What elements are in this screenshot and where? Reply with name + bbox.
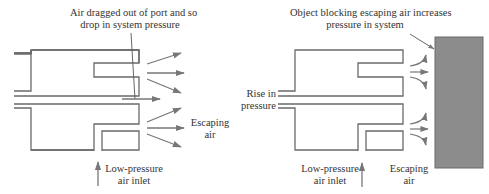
right-lower-deflected-arrows: [410, 113, 428, 145]
right-inlet-label: Low-pressure air inlet: [300, 163, 360, 187]
left-upper-escape-arrows: [147, 53, 184, 93]
left-escaping-line-1: Escaping: [190, 117, 230, 129]
left-nozzle-body: [14, 50, 139, 151]
right-inlet-line-1: Low-pressure: [300, 163, 360, 175]
right-annotation-line-2: pressure in system: [290, 19, 440, 31]
right-escaping-line-2: air: [389, 175, 429, 187]
right-nozzle-body: [278, 50, 403, 151]
rise-line-2: pressure: [236, 100, 276, 112]
right-annotation-top: Object blocking escaping air increases p…: [290, 7, 440, 31]
right-escaping-label: Escaping air: [389, 163, 429, 187]
annotation-pointer-line: [131, 33, 135, 99]
left-escaping-line-2: air: [190, 129, 230, 141]
right-inlet-line-2: air inlet: [300, 175, 360, 187]
left-inlet-line-2: air inlet: [104, 175, 164, 187]
left-lower-escape-arrows: [147, 108, 184, 147]
left-annotation-line-2: drop in system pressure: [70, 19, 190, 31]
blocking-object: [435, 37, 483, 168]
right-annotation-line-1: Object blocking escaping air increases: [290, 7, 440, 19]
left-inlet-line-1: Low-pressure: [104, 163, 164, 175]
left-inlet-label: Low-pressure air inlet: [104, 163, 164, 187]
left-annotation-line-1: Air dragged out of port and so: [70, 7, 190, 19]
left-annotation-top: Air dragged out of port and so drop in s…: [70, 7, 190, 31]
right-escaping-line-1: Escaping: [389, 163, 429, 175]
block-pointer-line: [410, 34, 434, 49]
left-escaping-label: Escaping air: [190, 117, 230, 141]
rise-line-1: Rise in: [236, 88, 276, 100]
rise-in-pressure-label: Rise in pressure: [236, 88, 276, 112]
right-upper-deflected-arrows: [410, 55, 428, 89]
